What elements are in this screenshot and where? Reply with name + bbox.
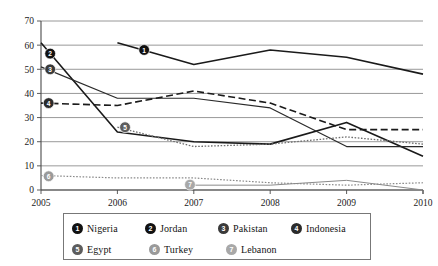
legend-item-indonesia: 4Indonesia bbox=[291, 223, 364, 234]
y-axis-tick-label: 20 bbox=[25, 137, 35, 147]
legend-label: Turkey bbox=[164, 244, 193, 255]
legend-marker-2-icon: 2 bbox=[145, 223, 156, 234]
legend-marker-4-icon: 4 bbox=[291, 223, 302, 234]
x-axis-tick-label: 2005 bbox=[32, 198, 51, 208]
series-line-pakistan bbox=[41, 67, 423, 147]
legend-label: Lebanon bbox=[241, 244, 277, 255]
series-marker-number-lebanon: 7 bbox=[188, 181, 192, 188]
series-line-turkey bbox=[41, 176, 423, 186]
series-marker-jordan: 2 bbox=[45, 48, 56, 59]
legend-row: 1Nigeria2Jordan3Pakistan4Indonesia bbox=[72, 218, 364, 239]
y-axis-tick-label: 10 bbox=[25, 161, 35, 171]
series-marker-nigeria: 1 bbox=[139, 45, 150, 56]
series-marker-number-nigeria: 1 bbox=[142, 47, 146, 54]
y-axis-tick-label: 0 bbox=[29, 185, 34, 195]
legend-marker-7-icon: 7 bbox=[226, 244, 237, 255]
legend-marker-1-icon: 1 bbox=[72, 223, 83, 234]
legend-item-nigeria: 1Nigeria bbox=[72, 223, 145, 234]
series-marker-number-egypt: 5 bbox=[123, 124, 127, 131]
y-axis-tick-label: 70 bbox=[25, 16, 35, 26]
series-marker-egypt: 5 bbox=[120, 122, 131, 133]
y-axis-tick-label: 30 bbox=[25, 113, 35, 123]
series-marker-number-jordan: 2 bbox=[48, 50, 52, 57]
series-line-lebanon bbox=[194, 180, 423, 190]
series-marker-lebanon: 7 bbox=[185, 179, 196, 190]
legend-row: 5Egypt6Turkey7Lebanon bbox=[72, 239, 364, 260]
legend-label: Indonesia bbox=[306, 223, 346, 234]
series-marker-number-indonesia: 4 bbox=[47, 100, 51, 107]
legend-item-turkey: 6Turkey bbox=[149, 244, 226, 255]
x-axis-tick-label: 2008 bbox=[261, 198, 280, 208]
series-marker-turkey: 6 bbox=[43, 171, 54, 182]
line-chart: 0102030405060702005200620072008200920101… bbox=[0, 0, 438, 266]
x-axis-tick-label: 2010 bbox=[414, 198, 433, 208]
series-marker-pakistan: 3 bbox=[45, 64, 56, 75]
legend-label: Jordan bbox=[160, 223, 187, 234]
legend-label: Egypt bbox=[87, 244, 111, 255]
legend-item-jordan: 2Jordan bbox=[145, 223, 218, 234]
legend-marker-5-icon: 5 bbox=[72, 244, 83, 255]
y-axis-tick-label: 50 bbox=[25, 65, 35, 75]
x-axis-tick-label: 2009 bbox=[337, 198, 356, 208]
y-axis-tick-label: 40 bbox=[25, 89, 35, 99]
legend-marker-6-icon: 6 bbox=[149, 244, 160, 255]
series-marker-number-pakistan: 3 bbox=[48, 66, 52, 73]
x-axis-tick-label: 2006 bbox=[108, 198, 127, 208]
legend-item-lebanon: 7Lebanon bbox=[226, 244, 303, 255]
y-axis-tick-label: 60 bbox=[25, 41, 35, 51]
legend-label: Nigeria bbox=[87, 223, 118, 234]
series-marker-number-turkey: 6 bbox=[47, 173, 51, 180]
series-marker-indonesia: 4 bbox=[43, 98, 54, 109]
legend-item-egypt: 5Egypt bbox=[72, 244, 149, 255]
x-axis-tick-label: 2007 bbox=[184, 198, 203, 208]
legend-item-pakistan: 3Pakistan bbox=[218, 223, 291, 234]
series-line-jordan bbox=[41, 43, 423, 156]
legend-marker-3-icon: 3 bbox=[218, 223, 229, 234]
chart-legend: 1Nigeria2Jordan3Pakistan4Indonesia 5Egyp… bbox=[63, 213, 371, 260]
legend-label: Pakistan bbox=[233, 223, 268, 234]
